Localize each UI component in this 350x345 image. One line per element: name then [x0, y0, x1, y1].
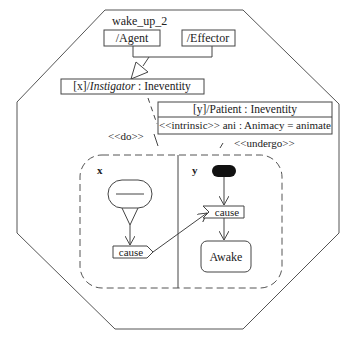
patient-header: [y]/Patient : Ineventity	[193, 103, 297, 116]
receive-signal-label: cause	[215, 206, 240, 218]
activity-region	[80, 155, 282, 288]
diagram-canvas: wake_up_2 /Agent /Effector [x]/Instigato…	[0, 0, 350, 345]
generalization-line	[143, 57, 149, 66]
undergo-stereotype: <<undergo>>	[234, 137, 295, 149]
initial-node	[212, 165, 236, 177]
fork-triangle	[122, 208, 138, 225]
instigator-label: [x]/Instigator : Ineventity	[73, 80, 191, 93]
patient-attribute: <<intrinsic>> ani : Animacy = animate	[159, 119, 331, 131]
role-connector	[133, 46, 212, 57]
agent-label: /Agent	[116, 31, 149, 45]
signal-flow	[153, 213, 207, 252]
awake-label: Awake	[210, 250, 243, 264]
diagram-title: wake_up_2	[112, 14, 167, 28]
send-signal-label: cause	[119, 246, 144, 258]
do-stereotype: <<do>>	[108, 130, 144, 142]
partition-label-x: x	[97, 164, 103, 176]
do-dependency-line	[148, 98, 157, 124]
generalization-arrowhead	[131, 62, 148, 79]
undergo-dependency-line	[220, 143, 223, 148]
do-dependency-line-lower	[154, 134, 158, 146]
partition-label-y: y	[192, 164, 198, 176]
effector-label: /Effector	[187, 31, 229, 45]
